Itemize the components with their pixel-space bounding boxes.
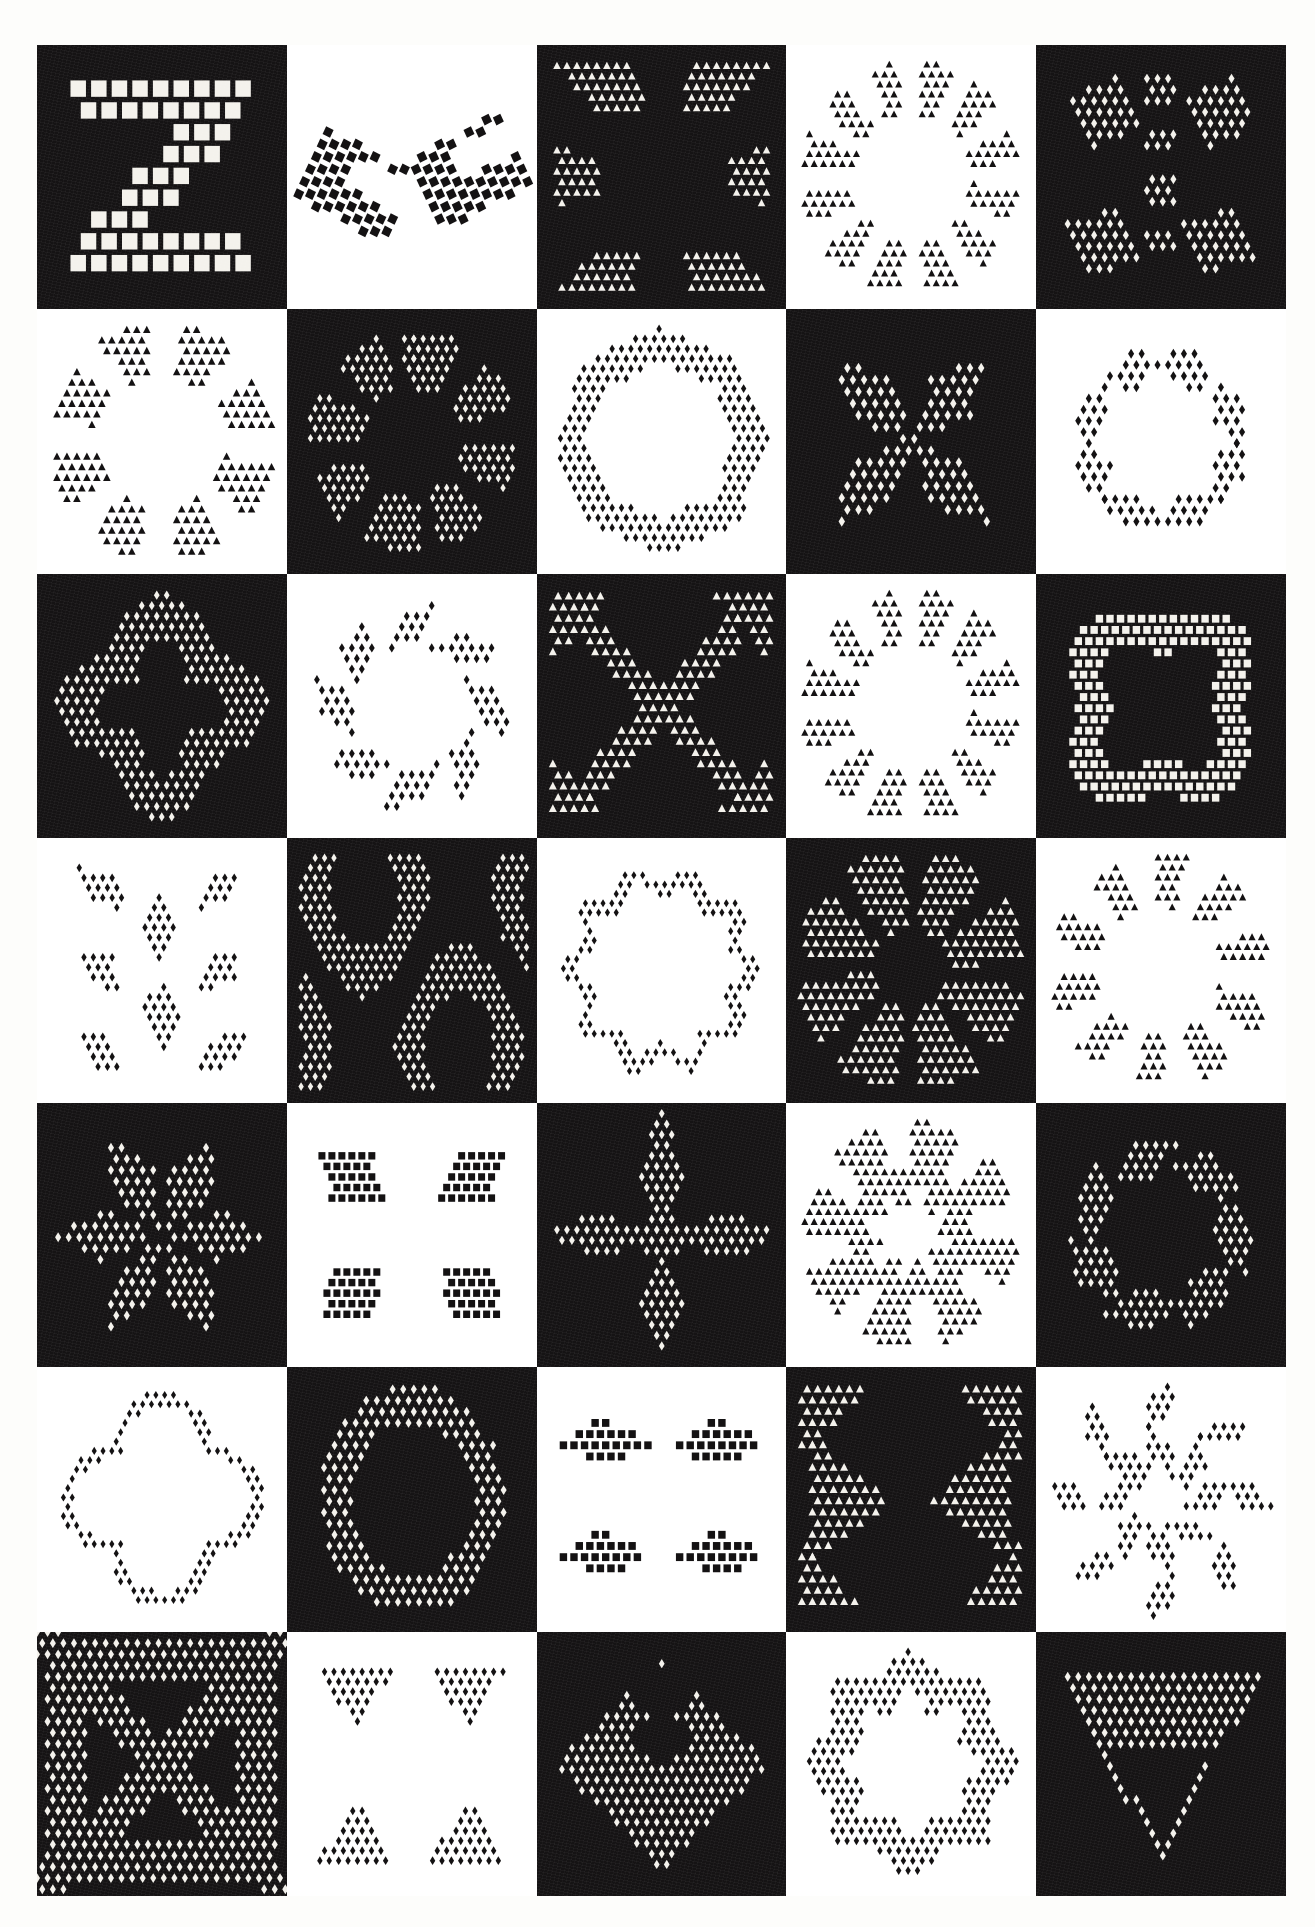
pattern-art-13 [537, 574, 787, 838]
pattern-plate [37, 45, 1286, 1896]
pattern-art-22 [287, 1103, 537, 1367]
pattern-art-5 [1036, 45, 1286, 309]
pattern-art-9 [786, 309, 1036, 573]
pattern-tile-19 [786, 838, 1036, 1102]
pattern-art-29 [786, 1367, 1036, 1631]
pattern-tile-11 [37, 574, 287, 838]
pattern-tile-27 [287, 1367, 537, 1631]
pattern-tile-23 [537, 1103, 787, 1367]
pattern-art-28 [537, 1367, 787, 1631]
pattern-art-32 [287, 1632, 537, 1896]
pattern-tile-17 [287, 838, 537, 1102]
pattern-art-27 [287, 1367, 537, 1631]
pattern-art-4 [786, 45, 1036, 309]
pattern-tile-12 [287, 574, 537, 838]
pattern-art-15 [1036, 574, 1286, 838]
pattern-tile-5 [1036, 45, 1286, 309]
pattern-tile-25 [1036, 1103, 1286, 1367]
pattern-tile-28 [537, 1367, 787, 1631]
pattern-tile-6 [37, 309, 287, 573]
pattern-art-30 [1036, 1367, 1286, 1631]
pattern-art-8 [537, 309, 787, 573]
pattern-art-1 [37, 45, 287, 309]
pattern-art-23 [537, 1103, 787, 1367]
pattern-art-11 [37, 574, 287, 838]
pattern-art-21 [37, 1103, 287, 1367]
pattern-tile-2 [287, 45, 537, 309]
pattern-tile-1 [37, 45, 287, 309]
pattern-art-31 [37, 1632, 287, 1896]
pattern-art-20 [1036, 838, 1286, 1102]
pattern-art-12 [287, 574, 537, 838]
pattern-tile-9 [786, 309, 1036, 573]
pattern-tile-32 [287, 1632, 537, 1896]
pattern-tile-3 [537, 45, 787, 309]
pattern-art-6 [37, 309, 287, 573]
pattern-art-16 [37, 838, 287, 1102]
pattern-tile-14 [786, 574, 1036, 838]
pattern-tile-22 [287, 1103, 537, 1367]
pattern-art-35 [1036, 1632, 1286, 1896]
pattern-tile-16 [37, 838, 287, 1102]
pattern-tile-15 [1036, 574, 1286, 838]
pattern-art-14 [786, 574, 1036, 838]
pattern-tile-7 [287, 309, 537, 573]
pattern-tile-4 [786, 45, 1036, 309]
pattern-art-26 [37, 1367, 287, 1631]
pattern-tile-33 [537, 1632, 787, 1896]
pattern-art-3 [537, 45, 787, 309]
pattern-art-33 [537, 1632, 787, 1896]
pattern-art-19 [786, 838, 1036, 1102]
pattern-tile-21 [37, 1103, 287, 1367]
pattern-tile-13 [537, 574, 787, 838]
pattern-tile-35 [1036, 1632, 1286, 1896]
pattern-tile-34 [786, 1632, 1036, 1896]
pattern-tile-26 [37, 1367, 287, 1631]
pattern-tile-18 [537, 838, 787, 1102]
pattern-art-10 [1036, 309, 1286, 573]
pattern-art-24 [786, 1103, 1036, 1367]
pattern-art-2 [287, 45, 537, 309]
pattern-tile-24 [786, 1103, 1036, 1367]
pattern-tile-20 [1036, 838, 1286, 1102]
pattern-art-34 [786, 1632, 1036, 1896]
pattern-art-18 [537, 838, 787, 1102]
pattern-tile-30 [1036, 1367, 1286, 1631]
pattern-tile-8 [537, 309, 787, 573]
pattern-art-17 [287, 838, 537, 1102]
pattern-art-25 [1036, 1103, 1286, 1367]
pattern-tile-31 [37, 1632, 287, 1896]
pattern-tile-10 [1036, 309, 1286, 573]
pattern-tile-29 [786, 1367, 1036, 1631]
pattern-art-7 [287, 309, 537, 573]
